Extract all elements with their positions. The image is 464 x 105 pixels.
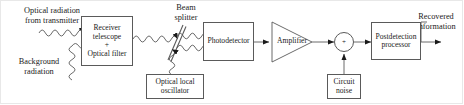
block-amplifier-label: Amplifier — [272, 36, 312, 45]
diagram-canvas: Optical radiation from transmitter Backg… — [0, 0, 464, 105]
block-postdetection-processor[interactable]: Postdetection processor — [371, 22, 421, 60]
summing-junction-operator: + — [342, 38, 346, 46]
summing-junction[interactable]: + — [334, 32, 354, 52]
block-circuit-noise[interactable]: Circuit noise — [327, 74, 361, 99]
block-circuit-noise-line2: noise — [336, 87, 352, 96]
block-postdetection-processor-line2: processor — [381, 41, 410, 50]
